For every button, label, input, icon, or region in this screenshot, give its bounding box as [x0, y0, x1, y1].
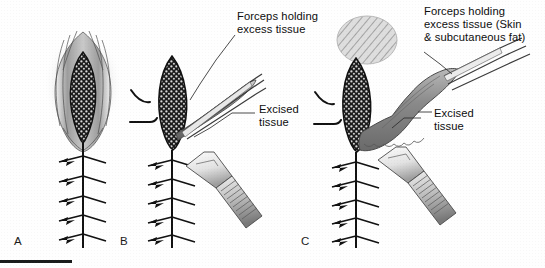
scalpel: [378, 147, 456, 225]
suture-arrowheads: [148, 162, 164, 245]
figure-canvas: Forceps holding excess tissue Excised ti…: [0, 0, 545, 268]
forceps-upper-arm: [182, 82, 252, 137]
forceps-upper-arm: [444, 48, 502, 81]
scalpel-handle: [216, 176, 262, 228]
leader-forceps: [424, 52, 452, 74]
label-excised-tissue-c: Excised tissue: [434, 107, 474, 133]
retraction-tick-marks: [130, 90, 157, 122]
panel-letter-a: A: [14, 235, 22, 247]
retraction-tick-marks: [314, 92, 341, 124]
panel-letter-c: C: [301, 235, 309, 247]
label-forceps-holding-excess-tissue-b: Forceps holding excess tissue: [237, 10, 318, 36]
panel-b-drawing: [130, 35, 266, 248]
scalpel: [186, 152, 262, 228]
suture-arrowheads: [59, 158, 75, 244]
label-excised-tissue-b: Excised tissue: [259, 103, 299, 129]
panel-letter-b: B: [120, 235, 128, 247]
scalpel-handle: [408, 171, 456, 225]
leader-forceps: [190, 35, 235, 100]
panel-c-drawing: [314, 16, 530, 248]
label-forceps-holding-excess-tissue-c: Forceps holding excess tissue (Skin & su…: [424, 5, 525, 45]
suture-arrowheads: [332, 164, 348, 246]
forceps: [444, 38, 530, 90]
panel-a-drawing: [43, 31, 123, 248]
scale-bar: [0, 260, 72, 263]
